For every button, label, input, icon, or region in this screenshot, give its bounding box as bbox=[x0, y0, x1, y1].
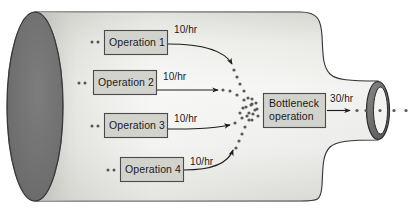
rate-label-3: 10/hr bbox=[174, 113, 197, 124]
bottleneck-label-line1: Bottleneck bbox=[269, 97, 319, 110]
bottle-diagram-canvas bbox=[0, 0, 417, 214]
output-rate-label: 30/hr bbox=[330, 93, 353, 104]
operation-label-3: Operation 3 bbox=[109, 119, 165, 131]
bottle-body bbox=[35, 12, 378, 201]
rate-label-2: 10/hr bbox=[163, 71, 186, 82]
rate-label-1: 10/hr bbox=[174, 24, 197, 35]
rate-label-4: 10/hr bbox=[190, 156, 213, 167]
bottleneck-diagram: Operation 1 10/hr Operation 2 10/hr Oper… bbox=[0, 0, 417, 214]
operation-label-4: Operation 4 bbox=[125, 163, 181, 175]
operation-label-2: Operation 2 bbox=[98, 76, 154, 88]
bottle-neck-ring bbox=[367, 82, 390, 140]
bottleneck-label-line2: operation bbox=[269, 110, 314, 123]
operation-label-1: Operation 1 bbox=[109, 36, 165, 48]
bottle-end-cap bbox=[7, 12, 63, 201]
